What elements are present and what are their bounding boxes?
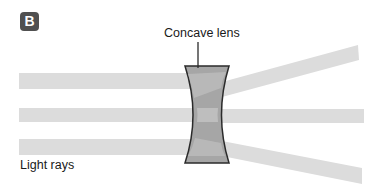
outgoing-ray-top — [222, 45, 359, 97]
outgoing-ray-bottom — [222, 141, 362, 184]
concave-lens-label: Concave lens — [164, 26, 240, 40]
lens-ray-band-middle — [197, 108, 218, 122]
outgoing-ray-middle — [218, 109, 364, 123]
incoming-ray-bottom — [19, 139, 194, 155]
incoming-ray-middle — [19, 108, 194, 122]
light-rays-label: Light rays — [20, 158, 74, 172]
incoming-ray-top — [19, 73, 194, 89]
